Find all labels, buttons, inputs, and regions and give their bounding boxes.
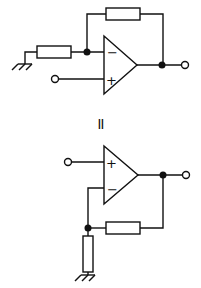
top-output-terminal (182, 62, 189, 69)
bottom-ground-resistor (83, 236, 93, 272)
top-feedback-resistor (106, 8, 140, 20)
bottom-feedback-resistor (106, 222, 140, 234)
bottom-feedback-wire-right (140, 175, 163, 228)
top-input-terminal (52, 76, 59, 83)
top-ground-icon (12, 64, 32, 70)
bottom-input-terminal (65, 159, 72, 166)
bottom-ground-icon (75, 275, 95, 281)
top-input-resistor (37, 46, 71, 58)
equivalence-symbol: = (92, 24, 111, 225)
top-feedback-wire-right (140, 14, 163, 65)
bottom-junction-dot (85, 225, 92, 232)
top-ground-wire (25, 52, 37, 64)
bottom-circuit: + − (65, 146, 190, 281)
top-output-junction-dot (159, 62, 166, 69)
top-junction-dot (84, 49, 91, 56)
bottom-output-terminal (183, 172, 190, 179)
bottom-output-junction-dot (160, 172, 167, 179)
